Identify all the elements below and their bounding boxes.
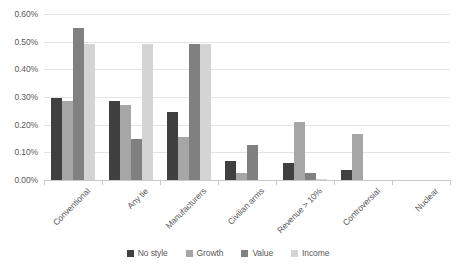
bar	[225, 161, 236, 180]
y-axis-tick-label: 0.60%	[14, 9, 38, 19]
bar-group	[218, 14, 276, 180]
category-axis-ticks	[44, 180, 450, 185]
legend-swatch-icon	[186, 250, 193, 257]
legend-label: Value	[252, 248, 273, 258]
category-tick	[392, 180, 393, 185]
bar	[84, 44, 95, 180]
x-axis-labels: ConventionalAny tieManufacturersCivilian…	[44, 186, 450, 242]
bar	[142, 44, 153, 180]
bar	[247, 145, 258, 180]
legend-item[interactable]: No style	[127, 248, 168, 258]
bar	[167, 112, 178, 180]
bar	[178, 137, 189, 180]
bar-group	[102, 14, 160, 180]
legend-label: Income	[302, 248, 329, 258]
bar	[283, 163, 294, 180]
category-tick	[450, 180, 451, 185]
bar	[62, 101, 73, 180]
bar-group	[160, 14, 218, 180]
category-tick	[102, 180, 103, 185]
bar	[131, 139, 142, 181]
y-axis-tick-label: 0.20%	[14, 120, 38, 130]
category-tick	[218, 180, 219, 185]
legend-label: No style	[138, 248, 168, 258]
bar	[341, 170, 352, 180]
bar-group	[44, 14, 102, 180]
bar-group	[334, 14, 392, 180]
legend-swatch-icon	[241, 250, 248, 257]
y-axis-tick-label: 0.10%	[14, 147, 38, 157]
legend-swatch-icon	[291, 250, 298, 257]
bar-group	[276, 14, 334, 180]
y-axis-tick-label: 0.50%	[14, 37, 38, 47]
y-axis-tick-label: 0.40%	[14, 64, 38, 74]
legend-item[interactable]: Growth	[186, 248, 224, 258]
y-axis: 0.60%0.50%0.40%0.30%0.20%0.10%0.00%	[0, 14, 42, 180]
bar-group	[392, 14, 450, 180]
y-axis-tick-label: 0.30%	[14, 92, 38, 102]
bar	[294, 122, 305, 180]
bar	[236, 173, 247, 180]
bar	[200, 44, 211, 180]
bars-layer	[44, 14, 450, 180]
bar	[51, 98, 62, 180]
legend-item[interactable]: Value	[241, 248, 273, 258]
bar	[352, 134, 363, 180]
category-tick	[160, 180, 161, 185]
category-tick	[276, 180, 277, 185]
bar	[305, 173, 316, 180]
legend-label: Growth	[197, 248, 224, 258]
legend-item[interactable]: Income	[291, 248, 329, 258]
category-tick	[44, 180, 45, 185]
y-axis-tick-label: 0.00%	[14, 175, 38, 185]
bar	[73, 28, 84, 180]
bar	[120, 105, 131, 180]
bar	[109, 101, 120, 180]
bar-chart: 0.60%0.50%0.40%0.30%0.20%0.10%0.00% Conv…	[0, 0, 456, 272]
plot-area	[44, 14, 450, 180]
chart-legend: No styleGrowthValueIncome	[0, 248, 456, 258]
legend-swatch-icon	[127, 250, 134, 257]
bar	[189, 44, 200, 180]
category-tick	[334, 180, 335, 185]
